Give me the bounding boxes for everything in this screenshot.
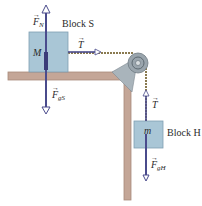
gravity-force-s-arrowhead-icon bbox=[42, 107, 50, 114]
block-s-mass-label: M bbox=[33, 48, 41, 58]
force-origin-marker bbox=[44, 52, 48, 70]
tension-h-label: → T bbox=[152, 100, 158, 110]
table-edge bbox=[124, 76, 131, 200]
diagram-canvas bbox=[0, 0, 202, 206]
vector-arrow-icon: → bbox=[152, 95, 159, 102]
block-s-label: Block S bbox=[62, 19, 94, 29]
tension-h-arrowhead-icon bbox=[143, 90, 149, 96]
pulley-axle bbox=[136, 61, 141, 66]
gravity-force-h-label: → FgH bbox=[151, 160, 166, 172]
block-h-mass-label: m bbox=[144, 126, 151, 136]
normal-force-label: → FN bbox=[33, 17, 44, 29]
vector-arrow-icon: → bbox=[52, 85, 59, 92]
gravity-force-s-label: → FgS bbox=[52, 90, 65, 102]
vector-arrow-icon: → bbox=[151, 155, 158, 162]
tension-s-label: → T bbox=[78, 40, 84, 50]
gravity-force-h-arrowhead-icon bbox=[143, 175, 149, 181]
block-h-name: Block H bbox=[167, 127, 201, 138]
force-subscript: N bbox=[39, 21, 44, 29]
block-h-label: Block H bbox=[167, 128, 201, 138]
force-subscript: gH bbox=[157, 164, 166, 172]
tension-s-arrowhead-icon bbox=[95, 49, 101, 55]
normal-force-arrowhead-icon bbox=[42, 5, 50, 13]
vector-arrow-icon: → bbox=[33, 12, 40, 19]
vector-arrow-icon: → bbox=[78, 35, 85, 42]
force-subscript: gS bbox=[58, 94, 65, 102]
